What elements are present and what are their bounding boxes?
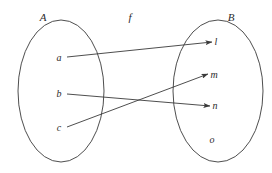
set-b-label: B (228, 11, 235, 23)
element-label-o: o (210, 134, 215, 145)
element-label-a: a (57, 52, 62, 63)
element-label-l: l (215, 36, 218, 47)
arrow-c-to-m (67, 74, 208, 127)
element-label-b: b (57, 88, 62, 99)
diagram-canvas: A B f a b c l m n o (0, 0, 272, 173)
set-a-label: A (39, 11, 47, 23)
element-label-n: n (213, 100, 218, 111)
set-b-ellipse (173, 20, 263, 162)
arrow-a-to-l (67, 42, 212, 57)
mapping-function-label: f (128, 11, 133, 23)
element-label-m: m (210, 69, 217, 80)
element-label-c: c (57, 122, 62, 133)
set-mapping-figure: A B f a b c l m n o (0, 0, 272, 173)
